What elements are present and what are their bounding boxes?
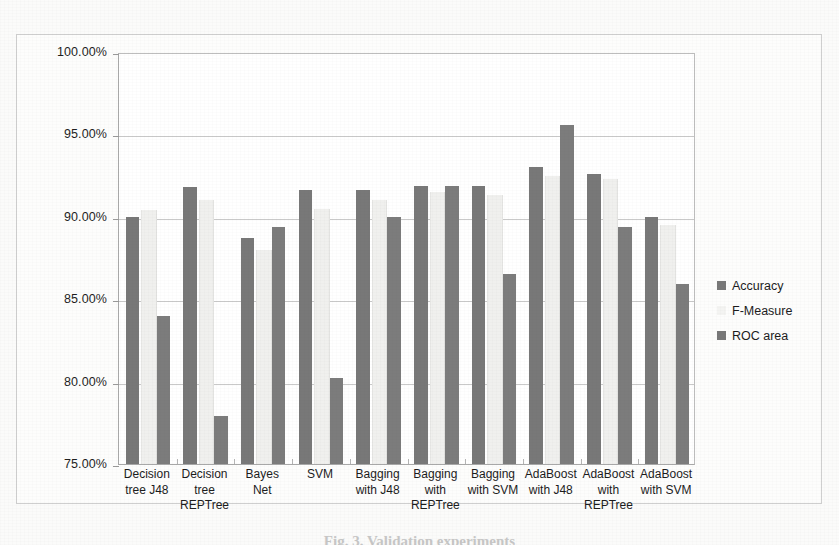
bar-group xyxy=(177,54,235,464)
bar-accuracy xyxy=(414,186,428,465)
x-axis-label-line: REPTree xyxy=(176,498,234,514)
x-axis-category-label: AdaBoostwithREPTree xyxy=(580,467,638,514)
x-axis-label-line: with J48 xyxy=(522,483,580,499)
plot-area xyxy=(118,53,695,465)
bar-group xyxy=(465,54,523,464)
legend-label: F-Measure xyxy=(732,304,792,318)
bar-roc-area xyxy=(387,217,401,464)
y-axis-tick-label: 75.00% xyxy=(29,457,107,471)
bar-f-measure xyxy=(660,225,676,464)
x-axis-label-line: tree J48 xyxy=(118,483,176,499)
figure-caption: Fig. 3. Validation experiments xyxy=(0,533,839,545)
x-axis-category-label: DecisiontreeREPTree xyxy=(176,467,234,514)
x-axis-label-line: Bagging xyxy=(349,467,407,483)
category-separator xyxy=(292,459,293,464)
bar-roc-area xyxy=(445,186,459,465)
category-separator xyxy=(350,459,351,464)
bar-f-measure xyxy=(199,200,215,464)
bar-roc-area xyxy=(560,125,574,464)
bar-group xyxy=(638,54,696,464)
bar-roc-area xyxy=(618,227,632,464)
x-axis-category-label: AdaBoostwith J48 xyxy=(522,467,580,498)
x-axis-label-line: Bagging xyxy=(464,467,522,483)
bar-accuracy xyxy=(529,167,543,464)
legend-label: Accuracy xyxy=(732,279,783,293)
legend-item-roc-area: ROC area xyxy=(717,323,837,348)
bar-group xyxy=(119,54,177,464)
x-axis-label-line: with J48 xyxy=(349,483,407,499)
bar-f-measure xyxy=(430,192,446,464)
category-separator xyxy=(177,459,178,464)
x-axis-category-label: Baggingwith J48 xyxy=(349,467,407,498)
bar-roc-area xyxy=(676,284,690,464)
bar-roc-area xyxy=(272,227,286,464)
y-axis-tick-label: 100.00% xyxy=(29,45,107,59)
x-axis-label-line: AdaBoost xyxy=(522,467,580,483)
bar-group xyxy=(350,54,408,464)
bar-accuracy xyxy=(183,187,197,464)
legend-item-f-measure: F-Measure xyxy=(717,298,837,323)
bar-accuracy xyxy=(241,238,255,464)
x-axis-category-label: BaggingwithREPTree xyxy=(407,467,465,514)
bar-accuracy xyxy=(587,174,601,464)
x-axis-label-line: AdaBoost xyxy=(637,467,695,483)
category-separator xyxy=(638,459,639,464)
bar-group xyxy=(234,54,292,464)
bar-roc-area xyxy=(503,274,517,464)
x-axis-label-line: Decision xyxy=(118,467,176,483)
x-axis-label-line: with SVM xyxy=(637,483,695,499)
category-separator xyxy=(523,459,524,464)
bar-accuracy xyxy=(299,190,313,464)
category-separator xyxy=(234,459,235,464)
bar-roc-area xyxy=(214,416,228,464)
legend-swatch-icon xyxy=(717,281,726,290)
x-axis-label-line: Net xyxy=(233,483,291,499)
x-axis-label-line: AdaBoost xyxy=(580,467,638,483)
bar-f-measure xyxy=(314,209,330,464)
bar-f-measure xyxy=(141,210,157,464)
chart-legend: AccuracyF-MeasureROC area xyxy=(717,273,837,348)
bars-layer xyxy=(119,54,694,464)
bar-f-measure xyxy=(487,195,503,464)
x-axis-label-line: with SVM xyxy=(464,483,522,499)
x-axis-category-label: Baggingwith SVM xyxy=(464,467,522,498)
bar-accuracy xyxy=(645,217,659,464)
bar-f-measure xyxy=(372,200,388,464)
legend-item-accuracy: Accuracy xyxy=(717,273,837,298)
x-axis-label-line: REPTree xyxy=(580,498,638,514)
y-axis-tick-label: 80.00% xyxy=(29,375,107,389)
category-separator xyxy=(465,459,466,464)
bar-group xyxy=(581,54,639,464)
x-axis-category-label: AdaBoostwith SVM xyxy=(637,467,695,498)
x-axis-labels: Decisiontree J48DecisiontreeREPTreeBayes… xyxy=(118,467,695,529)
bar-group xyxy=(523,54,581,464)
x-axis-label-line: SVM xyxy=(291,467,349,483)
bar-group xyxy=(408,54,466,464)
bar-roc-area xyxy=(157,316,171,464)
bar-accuracy xyxy=(472,186,486,465)
y-axis-tick-label: 95.00% xyxy=(29,127,107,141)
bar-f-measure xyxy=(603,179,619,464)
x-axis-category-label: BayesNet xyxy=(233,467,291,498)
chart-frame: 75.00%80.00%85.00%90.00%95.00%100.00% De… xyxy=(16,34,822,504)
category-separator xyxy=(408,459,409,464)
x-axis-label-line: with xyxy=(407,483,465,499)
bar-group xyxy=(292,54,350,464)
x-axis-label-line: REPTree xyxy=(407,498,465,514)
y-axis-tick-label: 85.00% xyxy=(29,292,107,306)
x-axis-category-label: SVM xyxy=(291,467,349,483)
x-axis-label-line: tree xyxy=(176,483,234,499)
bar-roc-area xyxy=(330,378,344,464)
bar-accuracy xyxy=(126,217,140,464)
y-axis-tick-label: 90.00% xyxy=(29,210,107,224)
bar-f-measure xyxy=(256,250,272,464)
x-axis-category-label: Decisiontree J48 xyxy=(118,467,176,498)
x-axis-label-line: with xyxy=(580,483,638,499)
category-separator xyxy=(581,459,582,464)
top-clipped-text xyxy=(44,0,564,10)
bar-accuracy xyxy=(356,190,370,464)
bar-f-measure xyxy=(545,176,561,464)
legend-label: ROC area xyxy=(732,329,788,343)
x-axis-label-line: Bayes xyxy=(233,467,291,483)
legend-swatch-icon xyxy=(717,331,726,340)
